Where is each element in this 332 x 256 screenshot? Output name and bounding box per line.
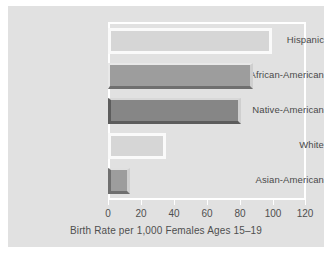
bar-row bbox=[108, 168, 306, 194]
bar-asian-american bbox=[108, 168, 130, 194]
x-tick-60 bbox=[207, 200, 208, 205]
x-tick-120 bbox=[305, 200, 306, 205]
x-tick-100 bbox=[273, 200, 274, 205]
x-tick-20 bbox=[141, 200, 142, 205]
x-tick-label-20: 20 bbox=[126, 208, 156, 219]
x-tick-label-80: 80 bbox=[225, 208, 255, 219]
bar-hispanic bbox=[108, 28, 272, 54]
bar-row bbox=[108, 133, 306, 159]
x-tick-label-120: 120 bbox=[290, 208, 320, 219]
bar-row bbox=[108, 63, 306, 89]
bar-african-american bbox=[108, 63, 253, 89]
x-axis-title: Birth Rate per 1,000 Females Ages 15–19 bbox=[8, 225, 324, 236]
bar-row bbox=[108, 28, 306, 54]
bar-native-american bbox=[108, 98, 241, 124]
bar-white bbox=[108, 133, 166, 159]
x-tick-80 bbox=[240, 200, 241, 205]
bar-row bbox=[108, 98, 306, 124]
x-tick-label-40: 40 bbox=[159, 208, 189, 219]
x-tick-label-60: 60 bbox=[192, 208, 222, 219]
chart-figure: Hispanic African-American Native-America… bbox=[8, 6, 324, 247]
x-tick-0 bbox=[108, 200, 109, 205]
x-tick-40 bbox=[174, 200, 175, 205]
x-tick-label-0: 0 bbox=[93, 208, 123, 219]
x-tick-label-100: 100 bbox=[258, 208, 288, 219]
